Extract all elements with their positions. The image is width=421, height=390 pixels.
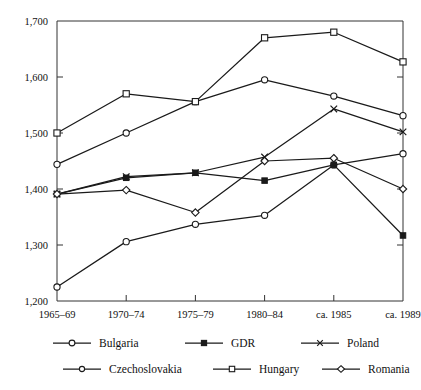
series-line — [57, 154, 403, 287]
legend-row-1: Bulgaria GDR Poland — [0, 330, 421, 356]
data-point — [400, 233, 405, 238]
line-chart-svg: 1,2001,3001,4001,5001,6001,700 1965–6919… — [0, 0, 421, 330]
data-point — [123, 130, 129, 136]
legend-label-gdr: GDR — [231, 337, 255, 349]
y-tick-label: 1,300 — [24, 240, 48, 251]
data-point — [123, 91, 129, 97]
data-point — [330, 155, 337, 162]
series-bulgaria — [54, 151, 406, 290]
legend-swatch-czechoslovakia — [62, 363, 102, 375]
x-tick-label: ca. 1985 — [316, 309, 352, 320]
data-point — [262, 178, 267, 183]
legend-swatch-gdr — [184, 337, 224, 349]
data-point — [54, 284, 60, 290]
axis-frame — [57, 21, 403, 301]
x-tick-label: ca. 1989 — [385, 309, 421, 320]
data-point — [400, 151, 406, 157]
data-point — [54, 130, 60, 136]
plot-frame — [57, 21, 403, 301]
legend-label-hungary: Hungary — [259, 363, 299, 375]
legend-label-romania: Romania — [368, 363, 410, 375]
data-point — [262, 77, 268, 83]
series-hungary — [54, 29, 406, 136]
data-point — [400, 59, 406, 65]
series-layer — [53, 29, 406, 290]
data-point — [192, 99, 198, 105]
legend-item-romania[interactable]: Romania — [321, 356, 421, 382]
y-tick-label: 1,500 — [24, 128, 48, 139]
x-tick-label: 1965–69 — [39, 309, 76, 320]
data-point — [331, 29, 337, 35]
x-tick-marks — [126, 295, 334, 301]
data-point — [123, 239, 129, 245]
data-point — [331, 93, 337, 99]
chart-legend: Bulgaria GDR Poland — [0, 330, 421, 390]
y-tick-label: 1,600 — [24, 72, 48, 83]
legend-item-hungary[interactable]: Hungary — [212, 356, 321, 382]
data-point — [400, 113, 406, 119]
x-tick-label: 1970–74 — [108, 309, 146, 320]
legend-item-poland[interactable]: Poland — [300, 330, 410, 356]
data-point — [192, 221, 198, 227]
x-tick-label: 1975–79 — [177, 309, 214, 320]
x-tick-label: 1980–84 — [246, 309, 284, 320]
data-point — [399, 185, 406, 192]
legend-label-bulgaria: Bulgaria — [99, 337, 139, 349]
series-line — [57, 80, 403, 165]
series-czechoslovakia — [54, 77, 406, 168]
legend-item-gdr[interactable]: GDR — [184, 330, 300, 356]
data-point — [54, 161, 60, 167]
legend-swatch-hungary — [212, 363, 252, 375]
data-point — [262, 212, 268, 218]
y-tick-labels: 1,2001,3001,4001,5001,6001,700 — [24, 16, 48, 307]
series-line — [57, 109, 403, 194]
legend-row-2: Czechoslovakia Hungary Romania — [0, 356, 421, 382]
series-line — [57, 32, 403, 133]
legend-label-poland: Poland — [347, 337, 379, 349]
x-axis-group — [126, 295, 334, 301]
figure: 1,2001,3001,4001,5001,6001,700 1965–6919… — [0, 0, 421, 390]
plot-area: 1,2001,3001,4001,5001,6001,700 1965–6919… — [0, 0, 421, 330]
x-tick-labels: 1965–691970–741975–791980–84ca. 1985ca. … — [39, 309, 421, 320]
data-point — [262, 35, 268, 41]
data-point — [331, 106, 338, 113]
legend-swatch-romania — [321, 363, 361, 375]
legend-label-czechoslovakia: Czechoslovakia — [109, 363, 182, 375]
series-line — [57, 158, 403, 212]
legend-item-czechoslovakia[interactable]: Czechoslovakia — [62, 356, 212, 382]
legend-swatch-poland — [300, 337, 340, 349]
data-point — [123, 186, 130, 193]
legend-item-bulgaria[interactable]: Bulgaria — [52, 330, 184, 356]
series-line — [57, 165, 403, 236]
legend-swatch-bulgaria — [52, 337, 92, 349]
y-tick-label: 1,400 — [24, 184, 48, 195]
y-tick-label: 1,700 — [24, 16, 48, 27]
series-poland — [54, 106, 407, 198]
series-gdr — [54, 162, 405, 238]
y-axis-group: 1,2001,3001,4001,5001,6001,700 — [24, 16, 403, 307]
y-tick-label: 1,200 — [24, 296, 48, 307]
data-point — [331, 162, 336, 167]
